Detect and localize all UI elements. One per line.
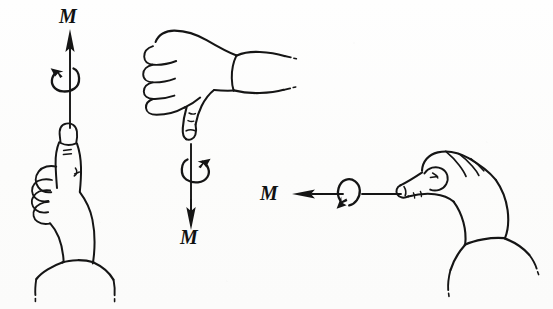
figure-ink-layer bbox=[0, 0, 553, 309]
arrow-up-icon bbox=[65, 29, 74, 60]
moment-label-up: M bbox=[59, 6, 77, 26]
hand-thumb-left-icon bbox=[396, 151, 538, 296]
arrow-left-icon bbox=[292, 189, 323, 198]
center-group-moment-vector bbox=[182, 144, 211, 230]
hand-thumb-down-icon bbox=[143, 31, 296, 140]
hand-thumb-up-icon bbox=[32, 123, 115, 301]
left-group-moment-vector bbox=[51, 29, 79, 128]
moment-label-left: M bbox=[260, 183, 278, 203]
right-group-moment-vector bbox=[292, 179, 401, 209]
moment-label-down: M bbox=[180, 227, 198, 247]
figure-canvas: M M M bbox=[0, 0, 553, 309]
